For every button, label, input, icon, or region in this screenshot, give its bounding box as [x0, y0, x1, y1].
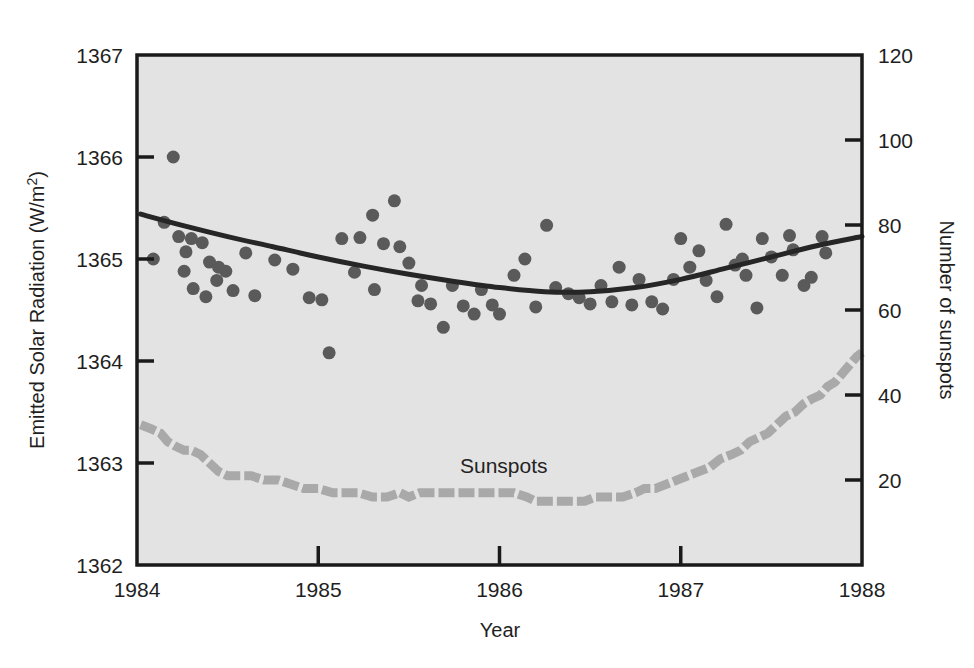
left-axis-tick-label: 1365: [76, 248, 123, 271]
scatter-point: [388, 194, 401, 207]
scatter-point: [248, 289, 261, 302]
scatter-point: [178, 265, 191, 278]
scatter-point: [711, 290, 724, 303]
scatter-point: [199, 290, 212, 303]
scatter-point: [402, 257, 415, 270]
solar-radiation-sunspots-figure: 136713661365136413631362 12010080604020 …: [0, 0, 974, 668]
left-axis-tick-label: 1366: [76, 146, 123, 169]
left-axis-tick-label: 1364: [76, 350, 123, 373]
scatter-point: [239, 246, 252, 259]
right-axis-tick-labels: 12010080604020: [878, 44, 913, 492]
scatter-point: [377, 237, 390, 250]
scatter-point: [179, 245, 192, 258]
scatter-point: [227, 284, 240, 297]
bottom-axis-tick-label: 1988: [839, 578, 886, 601]
scatter-point: [315, 293, 328, 306]
scatter-point: [683, 261, 696, 274]
scatter-point: [645, 295, 658, 308]
scatter-point: [656, 302, 669, 315]
scatter-point: [424, 297, 437, 310]
left-axis-tick-label: 1367: [76, 44, 123, 67]
scatter-point: [393, 240, 406, 253]
right-axis-tick-label: 40: [878, 384, 901, 407]
scatter-point: [625, 298, 638, 311]
scatter-point: [468, 308, 481, 321]
right-axis-title: Number of sunspots: [936, 221, 958, 400]
scatter-point: [518, 253, 531, 266]
scatter-point: [529, 300, 542, 313]
bottom-axis-title: Year: [480, 619, 521, 641]
scatter-point: [210, 274, 223, 287]
scatter-point: [411, 294, 424, 307]
right-axis-tick-label: 80: [878, 214, 901, 237]
scatter-point: [457, 299, 470, 312]
scatter-point: [750, 301, 763, 314]
scatter-point: [303, 291, 316, 304]
right-axis-tick-label: 100: [878, 129, 913, 152]
bottom-axis-tick-label: 1985: [295, 578, 342, 601]
scatter-point: [172, 230, 185, 243]
scatter-point: [335, 232, 348, 245]
left-axis-tick-labels: 136713661365136413631362: [76, 44, 123, 577]
bottom-axis-tick-labels: 19841985198619871988: [114, 578, 886, 601]
scatter-point: [415, 279, 428, 292]
scatter-point: [783, 229, 796, 242]
scatter-point: [674, 232, 687, 245]
left-axis-title: Emitted Solar Radiation (W/m2): [24, 171, 48, 449]
scatter-point: [187, 282, 200, 295]
scatter-point: [692, 244, 705, 257]
scatter-point: [584, 297, 597, 310]
scatter-point: [720, 218, 733, 231]
scatter-point: [508, 269, 521, 282]
scatter-point: [776, 269, 789, 282]
scatter-point: [167, 151, 180, 164]
scatter-point: [819, 246, 832, 259]
scatter-point: [493, 308, 506, 321]
right-axis-tick-label: 60: [878, 299, 901, 322]
scatter-point: [613, 261, 626, 274]
right-axis-tick-label: 120: [878, 44, 913, 67]
scatter-point: [196, 236, 209, 249]
sunspots-label: Sunspots: [460, 454, 548, 477]
scatter-point: [368, 283, 381, 296]
chart-canvas: 136713661365136413631362 12010080604020 …: [0, 0, 974, 668]
scatter-point: [740, 269, 753, 282]
scatter-point: [540, 219, 553, 232]
chart-annotations: Sunspots: [460, 454, 548, 477]
bottom-axis-tick-label: 1987: [657, 578, 704, 601]
left-axis-tick-label: 1362: [76, 554, 123, 577]
scatter-point: [805, 271, 818, 284]
bottom-axis-tick-label: 1984: [114, 578, 161, 601]
scatter-point: [353, 231, 366, 244]
scatter-point: [366, 209, 379, 222]
left-axis-tick-label: 1363: [76, 452, 123, 475]
scatter-point: [268, 254, 281, 267]
bottom-axis-tick-label: 1986: [476, 578, 523, 601]
scatter-point: [605, 295, 618, 308]
scatter-point: [437, 321, 450, 334]
right-axis-tick-label: 20: [878, 469, 901, 492]
scatter-point: [323, 346, 336, 359]
scatter-point: [286, 263, 299, 276]
scatter-point: [756, 232, 769, 245]
